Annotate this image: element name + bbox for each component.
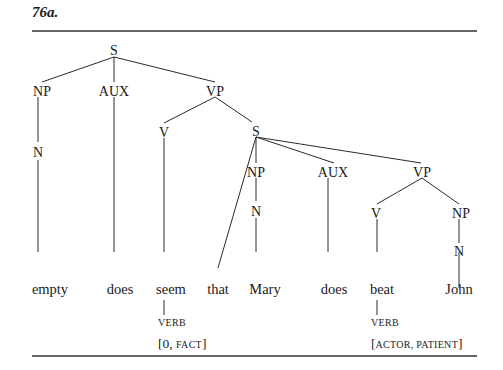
node-v-main: V: [159, 125, 169, 140]
node-np-subject: NP: [33, 84, 51, 99]
node-s-embedded: S: [252, 124, 260, 139]
node-n-embedded: N: [251, 204, 261, 219]
terminal-words: empty does seem that Mary does beat John: [32, 281, 474, 297]
annotation-seem: verb [0, fact]: [158, 317, 207, 351]
node-n-subject: N: [33, 145, 43, 160]
category-verb-beat: verb: [371, 317, 399, 328]
node-aux-embedded: AUX: [318, 165, 348, 180]
word-does-main: does: [107, 281, 134, 297]
node-np-object: NP: [452, 206, 470, 221]
syntax-tree: S NP AUX VP N V S NP AUX VP N V NP N emp…: [0, 0, 503, 370]
subcat-frame-seem: [0, fact]: [158, 336, 207, 351]
node-s-root: S: [110, 43, 118, 58]
word-john: John: [445, 281, 473, 297]
node-aux-main: AUX: [99, 84, 129, 99]
annotation-beat: verb [actor, patient]: [371, 317, 463, 351]
node-vp-main: VP: [206, 84, 224, 99]
word-that: that: [207, 281, 229, 297]
node-n-object: N: [454, 244, 464, 259]
subcat-frame-beat: [actor, patient]: [371, 336, 463, 351]
word-seem: seem: [156, 281, 187, 297]
word-empty: empty: [32, 281, 69, 297]
word-beat: beat: [370, 281, 394, 297]
category-verb-seem: verb: [158, 317, 186, 328]
node-vp-embedded: VP: [413, 165, 431, 180]
node-np-embedded: NP: [247, 165, 265, 180]
word-mary: Mary: [249, 281, 281, 297]
node-v-embedded: V: [371, 206, 381, 221]
word-does-embedded: does: [321, 281, 348, 297]
